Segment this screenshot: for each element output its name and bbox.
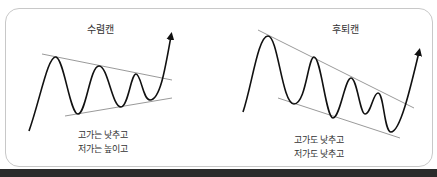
price-curve — [243, 36, 419, 132]
caption-line-2: 저가는 높이고 — [78, 144, 129, 154]
diagram-title: 후퇴캔 — [332, 24, 359, 35]
price-curve — [29, 36, 171, 131]
caption-line-2: 저가도 낮추고 — [294, 149, 345, 159]
support-line — [65, 98, 172, 116]
bottom-divider-bar — [0, 169, 437, 177]
caption-line-1: 고가도 낮추고 — [294, 135, 345, 145]
resistance-line — [258, 30, 414, 108]
caption-line-1: 고가는 낮추고 — [78, 130, 129, 140]
diagram-converging: 수렴캔 고가는 낮추고 저가는 높이고 — [29, 23, 172, 154]
diagram-descending: 후퇴캔 고가도 낮추고 저가도 낮추고 — [243, 24, 419, 159]
pattern-diagrams: 수렴캔 고가는 낮추고 저가는 높이고 후퇴캔 고가도 낮추고 저가도 낮추고 — [0, 0, 437, 177]
diagram-title: 수렴캔 — [87, 23, 114, 35]
